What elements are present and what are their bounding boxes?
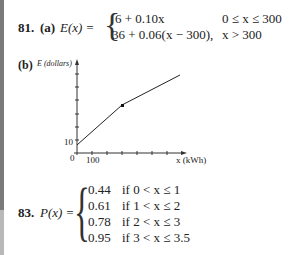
p-case-3-cond: if 2 < x ≤ 3 — [122, 214, 180, 230]
p-case-2-value: 0.61 — [88, 198, 111, 214]
p-case-4-value: 0.95 — [88, 230, 111, 246]
p-case-2-cond: if 1 < x ≤ 2 — [122, 198, 180, 214]
x-axis-label: x (kWh) — [176, 155, 206, 165]
p-case-3-value: 0.78 — [88, 214, 111, 230]
p-case-1-cond: if 0 < x ≤ 1 — [122, 182, 180, 198]
p-case-1-value: 0.44 — [88, 182, 111, 198]
x-tick-label-100: 100 — [86, 155, 100, 165]
p-case-4-cond: if 3 < x ≤ 3.5 — [122, 230, 190, 246]
x-tick-label-0: 0 — [70, 153, 75, 163]
y-tick-label-10: 10 — [64, 137, 73, 147]
y-axis-label: E (dollars) — [37, 59, 72, 68]
p-function-lhs: P(x) = — [40, 205, 74, 221]
problem-83-number: 83. — [18, 205, 34, 221]
